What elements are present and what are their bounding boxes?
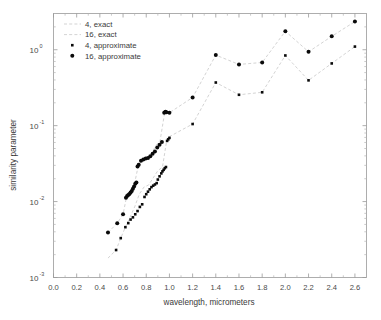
data-point-square <box>158 175 161 178</box>
x-tick-label: 1.2 <box>187 283 198 292</box>
data-point-circle <box>115 221 119 225</box>
data-point-square <box>147 190 150 193</box>
legend-label: 16, approximate <box>85 52 141 61</box>
data-lines <box>108 22 355 259</box>
y-axis-label: similarity parameter <box>9 119 18 191</box>
legend-label: 16, exact <box>85 30 117 39</box>
data-point-square <box>127 222 130 225</box>
data-point-square <box>165 166 168 169</box>
data-point-circle <box>353 20 357 24</box>
svg-text:10: 10 <box>30 122 39 131</box>
data-point-square <box>191 123 194 126</box>
data-point-square <box>139 206 142 209</box>
data-point-circle <box>191 95 195 99</box>
data-point-square <box>141 203 144 206</box>
chart-figure: 0.00.20.40.60.81.01.21.41.61.82.02.22.42… <box>0 0 381 320</box>
y-tick-label: 10-3 <box>30 271 45 283</box>
y-tick-label: 100 <box>30 43 43 55</box>
data-point-circle <box>237 62 241 66</box>
data-point-square <box>124 226 127 229</box>
data-point-circle <box>167 111 171 115</box>
data-point-circle <box>283 29 287 33</box>
svg-text:10: 10 <box>30 46 39 55</box>
svg-text:-1: -1 <box>40 119 45 125</box>
x-tick-label: 0.4 <box>95 283 106 292</box>
data-point-square <box>284 54 287 57</box>
x-tick-label: 0.8 <box>141 283 152 292</box>
data-point-square <box>143 196 146 199</box>
x-tick-label: 0.6 <box>118 283 129 292</box>
data-point-square <box>119 237 122 240</box>
x-tick-label: 2.2 <box>303 283 314 292</box>
data-point-circle <box>160 140 164 144</box>
x-tick-label: 2.0 <box>280 283 291 292</box>
chart-legend: 4, exact16, exact4, approximate16, appro… <box>64 20 141 61</box>
x-tick-label: 1.6 <box>234 283 245 292</box>
legend-item: 16, exact <box>64 30 117 39</box>
data-point-square <box>157 178 160 181</box>
data-point-circle <box>137 163 141 167</box>
data-point-square <box>115 249 118 252</box>
data-point-circle <box>307 50 311 54</box>
legend-item: 16, approximate <box>70 52 141 61</box>
y-axis-tick-labels: 10010-110-210-3 <box>30 43 45 282</box>
data-point-square <box>214 81 217 84</box>
data-markers <box>106 20 357 252</box>
data-point-circle <box>214 53 218 57</box>
x-tick-label: 0.0 <box>48 283 59 292</box>
data-point-circle <box>330 34 334 38</box>
data-point-circle <box>134 181 138 185</box>
svg-text:-3: -3 <box>40 271 45 277</box>
data-point-square <box>330 62 333 65</box>
legend-label: 4, exact <box>85 20 113 29</box>
data-point-square <box>261 91 264 94</box>
x-tick-label: 2.4 <box>326 283 337 292</box>
legend-circle-swatch <box>70 54 74 58</box>
data-point-square <box>238 93 241 96</box>
legend-label: 4, approximate <box>85 41 137 50</box>
data-point-square <box>307 79 310 82</box>
legend-item: 4, exact <box>64 20 113 29</box>
series-line <box>108 47 355 259</box>
data-point-circle <box>260 60 264 64</box>
data-point-circle <box>153 150 157 154</box>
data-point-square <box>132 216 135 219</box>
x-tick-label: 2.6 <box>350 283 361 292</box>
y-tick-label: 10-1 <box>30 119 45 131</box>
data-point-square <box>354 45 357 48</box>
x-tick-label: 1.4 <box>211 283 222 292</box>
data-point-square <box>129 218 132 221</box>
series-line <box>108 22 355 233</box>
data-point-circle <box>106 231 110 235</box>
x-axis-tick-labels: 0.00.20.40.60.81.01.21.41.61.82.02.22.42… <box>48 283 360 292</box>
data-point-square <box>168 137 171 140</box>
data-point-square <box>155 182 158 185</box>
data-point-square <box>136 210 139 213</box>
data-point-square <box>134 213 137 216</box>
x-tick-label: 1.0 <box>164 283 175 292</box>
x-tick-label: 0.2 <box>71 283 82 292</box>
svg-text:0: 0 <box>40 43 43 49</box>
x-tick-label: 1.8 <box>257 283 268 292</box>
legend-item: 4, approximate <box>71 41 137 50</box>
legend-square-swatch <box>71 44 74 47</box>
svg-text:10: 10 <box>30 198 39 207</box>
y-tick-label: 10-2 <box>30 195 45 207</box>
svg-text:10: 10 <box>30 274 39 283</box>
similarity-parameter-scatter-plot: 0.00.20.40.60.81.01.21.41.61.82.02.22.42… <box>0 0 381 320</box>
svg-text:-2: -2 <box>40 195 45 201</box>
data-point-square <box>145 193 148 196</box>
x-axis-label: wavelength, micrometers <box>162 298 254 307</box>
data-point-circle <box>121 212 125 216</box>
